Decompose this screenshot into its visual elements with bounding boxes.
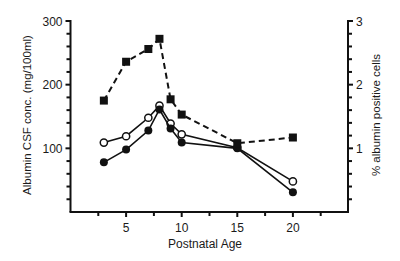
filled-circle-marker xyxy=(167,125,175,133)
open-circle-marker xyxy=(289,178,296,185)
filled-circle-marker xyxy=(144,127,152,135)
series-line xyxy=(104,109,293,192)
square-marker xyxy=(233,139,241,147)
y2-tick-label: 2 xyxy=(356,78,363,92)
y2-axis-label: % albumin positive cells xyxy=(370,54,382,176)
open-circle-marker xyxy=(145,114,152,121)
filled-circle-marker xyxy=(178,139,186,147)
square-marker xyxy=(155,35,163,43)
y-tick-label: 200 xyxy=(42,78,62,92)
square-marker xyxy=(122,58,130,66)
square-marker xyxy=(100,97,108,105)
x-axis-label: Postnatal Age xyxy=(168,237,242,251)
y-axis-label: Albumin CSF conc. (mg/100ml) xyxy=(21,35,33,195)
y2-tick-label: 3 xyxy=(356,15,363,29)
y2-tick-label: 1 xyxy=(356,142,363,156)
square-marker xyxy=(178,111,186,119)
filled-circle-marker xyxy=(122,146,130,154)
square-marker xyxy=(289,134,297,142)
series-1 xyxy=(100,105,297,196)
x-tick-label: 5 xyxy=(123,221,130,235)
open-circle-marker xyxy=(178,131,185,138)
axes: 1002003001235101520 xyxy=(42,15,363,236)
y-tick-label: 100 xyxy=(42,142,62,156)
series-2 xyxy=(100,35,297,147)
y-tick-label: 300 xyxy=(42,15,62,29)
chart-container: 1002003001235101520 Postnatal Age Albumi… xyxy=(0,0,400,261)
open-circle-marker xyxy=(123,133,130,140)
x-tick-label: 10 xyxy=(175,221,189,235)
series-line xyxy=(104,39,293,143)
filled-circle-marker xyxy=(155,105,163,113)
open-circle-marker xyxy=(100,139,107,146)
filled-circle-marker xyxy=(100,158,108,166)
x-tick-label: 20 xyxy=(286,221,300,235)
filled-circle-marker xyxy=(289,188,297,196)
line-chart: 1002003001235101520 Postnatal Age Albumi… xyxy=(0,0,400,261)
plot-area xyxy=(100,35,297,196)
square-marker xyxy=(144,45,152,53)
x-tick-label: 15 xyxy=(231,221,245,235)
square-marker xyxy=(167,95,175,103)
